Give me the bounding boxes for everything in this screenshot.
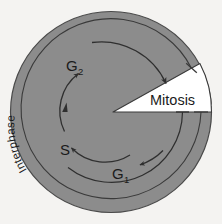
cell-cycle-figure: G 2 S G 1 Mitosis Interphase — [0, 0, 222, 224]
label-g2-subscript: 2 — [78, 66, 83, 77]
label-s: S — [60, 141, 70, 158]
cell-cycle-svg: G 2 S G 1 Mitosis Interphase — [0, 0, 222, 224]
label-mitosis: Mitosis — [150, 92, 195, 108]
label-g2-letter: G — [66, 57, 78, 74]
label-g1-subscript: 1 — [124, 174, 129, 185]
label-g1-letter: G — [112, 165, 124, 182]
